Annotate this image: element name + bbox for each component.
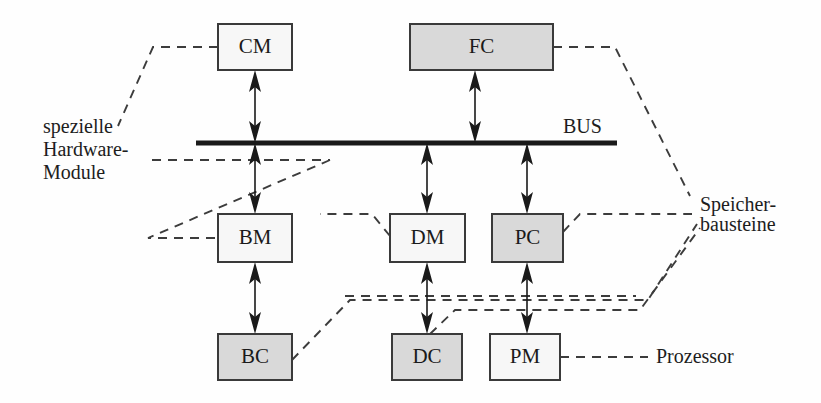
diagram-canvas: CMFCBMDMPCBCDCPM spezielleHardware-Modul…	[0, 0, 821, 403]
arrow-bus-bm	[249, 143, 261, 214]
arrow-bus-pc	[521, 143, 533, 214]
leader-pc-to-memory-modules	[563, 214, 692, 232]
annotation-line-special-hardware-2: Module	[43, 161, 105, 183]
box-label-dm: DM	[411, 225, 445, 249]
box-label-fc: FC	[469, 34, 495, 58]
leader-cm-to-special-hardware	[118, 47, 218, 126]
box-label-cm: CM	[239, 34, 272, 58]
box-label-dc: DC	[412, 344, 441, 368]
annotation-special-hardware: spezielleHardware-Module	[43, 115, 129, 183]
dashed-leader-lines	[118, 47, 700, 360]
box-label-bc: BC	[241, 344, 269, 368]
arrow-dm-dc	[421, 262, 433, 334]
annotation-line-memory-modules-1: bausteine	[700, 213, 776, 235]
box-cm[interactable]: CM	[218, 24, 292, 70]
annotation-line-processor-0: Prozessor	[656, 345, 734, 367]
box-pc[interactable]: PC	[492, 214, 563, 262]
leader-dm-to-memory-modules	[320, 214, 390, 236]
box-bm[interactable]: BM	[218, 214, 292, 262]
arrow-bm-bc	[249, 262, 261, 334]
box-dm[interactable]: DM	[390, 214, 465, 262]
box-label-bm: BM	[239, 225, 272, 249]
connector-arrows	[249, 70, 533, 334]
annotation-line-special-hardware-1: Hardware-	[43, 138, 129, 160]
box-label-pm: PM	[510, 344, 541, 368]
arrow-fc-bus	[469, 70, 481, 143]
arrow-bus-dm	[421, 143, 433, 214]
architecture-diagram: CMFCBMDMPCBCDCPM spezielleHardware-Modul…	[0, 0, 821, 403]
box-dc[interactable]: DC	[392, 334, 462, 380]
annotation-memory-modules: Speicher-bausteine	[700, 193, 776, 235]
annotation-processor: Prozessor	[656, 345, 734, 367]
box-pm[interactable]: PM	[490, 334, 560, 380]
box-bc[interactable]: BC	[218, 334, 292, 380]
arrow-cm-bus	[249, 70, 261, 143]
annotation-line-special-hardware-0: spezielle	[43, 115, 113, 138]
boxes-layer: CMFCBMDMPCBCDCPM	[218, 24, 563, 380]
box-fc[interactable]: FC	[410, 24, 553, 70]
box-label-pc: PC	[515, 225, 541, 249]
arrow-pc-pm	[521, 262, 533, 334]
bus-label: BUS	[563, 115, 602, 137]
